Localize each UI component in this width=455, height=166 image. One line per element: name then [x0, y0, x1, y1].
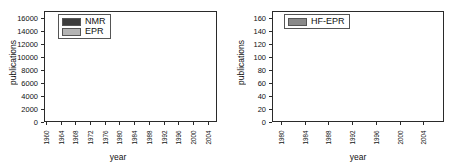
x-tick-mark-1988: [328, 122, 329, 125]
y-tick-label-120: 120: [228, 39, 266, 48]
x-tick-mark-1972: [90, 122, 91, 125]
x-tick-mark-1992: [352, 122, 353, 125]
x-tick-label-1996: 1996: [372, 130, 379, 144]
y-tick-label-12000: 12000: [0, 39, 38, 48]
y-tick-mark-14000: [41, 31, 44, 32]
x-tick-mark-2004: [208, 122, 209, 125]
y-tick-label-8000: 8000: [0, 65, 38, 74]
y-axis-title-right: publications: [236, 40, 246, 85]
x-tick-mark-1980: [281, 122, 282, 125]
x-tick-label-2004: 2004: [420, 130, 427, 144]
y-tick-mark-0: [41, 122, 44, 123]
x-tick-mark-1964: [61, 122, 62, 125]
y-tick-mark-16000: [41, 18, 44, 19]
y-tick-label-4000: 4000: [0, 91, 38, 100]
x-tick-mark-1992: [164, 122, 165, 125]
legend-label-hfepr: HF-EPR: [311, 17, 345, 26]
legend-label-nmr: NMR: [85, 17, 106, 26]
y-tick-label-2000: 2000: [0, 104, 38, 113]
y-tick-mark-60: [269, 83, 272, 84]
x-tick-label-1992: 1992: [349, 130, 356, 144]
x-tick-mark-1968: [75, 122, 76, 125]
x-tick-label-1980: 1980: [116, 130, 123, 144]
x-tick-mark-1988: [149, 122, 150, 125]
x-tick-label-2000: 2000: [396, 130, 403, 144]
y-tick-label-6000: 6000: [0, 78, 38, 87]
x-tick-label-1984: 1984: [301, 130, 308, 144]
x-tick-mark-1984: [305, 122, 306, 125]
y-tick-mark-40: [269, 96, 272, 97]
y-tick-mark-0: [269, 122, 272, 123]
x-tick-label-1968: 1968: [72, 130, 79, 144]
legend-swatch-hfepr: [288, 18, 307, 26]
x-tick-mark-1996: [178, 122, 179, 125]
y-tick-mark-12000: [41, 44, 44, 45]
x-tick-mark-1976: [105, 122, 106, 125]
x-tick-label-1992: 1992: [160, 130, 167, 144]
y-tick-mark-140: [269, 31, 272, 32]
x-tick-label-1980: 1980: [277, 130, 284, 144]
legend-label-epr: EPR: [85, 27, 104, 36]
x-tick-mark-1960: [46, 122, 47, 125]
x-tick-mark-1980: [119, 122, 120, 125]
x-tick-label-2004: 2004: [204, 130, 211, 144]
y-tick-label-0: 0: [0, 118, 38, 127]
x-tick-label-1988: 1988: [325, 130, 332, 144]
y-tick-mark-8000: [41, 70, 44, 71]
x-tick-mark-2000: [193, 122, 194, 125]
y-tick-label-10000: 10000: [0, 52, 38, 61]
chart-panel-nmr-epr: 0200040006000800010000120001400016000 19…: [0, 0, 228, 166]
y-tick-label-0: 0: [228, 118, 266, 127]
x-tick-mark-1996: [376, 122, 377, 125]
publication-statistics-figure: 0200040006000800010000120001400016000 19…: [0, 0, 455, 166]
legend-nmr-epr: NMR EPR: [58, 14, 111, 39]
y-tick-label-160: 160: [228, 13, 266, 22]
y-tick-mark-6000: [41, 83, 44, 84]
legend-hf-epr: HF-EPR: [284, 14, 350, 29]
y-tick-mark-120: [269, 44, 272, 45]
y-tick-mark-2000: [41, 109, 44, 110]
legend-item-epr: EPR: [62, 27, 106, 36]
chart-panel-hf-epr: 020406080100120140160 198019841988199219…: [228, 0, 455, 166]
x-tick-label-1996: 1996: [175, 130, 182, 144]
legend-swatch-nmr: [62, 18, 81, 26]
y-tick-label-14000: 14000: [0, 26, 38, 35]
x-tick-label-2000: 2000: [190, 130, 197, 144]
y-axis-title-left: publications: [8, 40, 18, 85]
y-tick-label-60: 60: [228, 78, 266, 87]
y-tick-mark-20: [269, 109, 272, 110]
y-tick-mark-80: [269, 70, 272, 71]
y-tick-label-80: 80: [228, 65, 266, 74]
legend-swatch-epr: [62, 28, 81, 36]
legend-item-hfepr: HF-EPR: [288, 17, 345, 26]
y-tick-mark-100: [269, 57, 272, 58]
x-tick-label-1988: 1988: [145, 130, 152, 144]
x-axis-title-left: year: [110, 152, 127, 162]
x-tick-label-1976: 1976: [101, 130, 108, 144]
x-tick-mark-2004: [423, 122, 424, 125]
y-tick-mark-160: [269, 18, 272, 19]
x-tick-label-1960: 1960: [42, 130, 49, 144]
x-tick-label-1964: 1964: [57, 130, 64, 144]
x-tick-mark-1984: [134, 122, 135, 125]
x-tick-mark-2000: [400, 122, 401, 125]
y-tick-label-20: 20: [228, 104, 266, 113]
y-tick-label-140: 140: [228, 26, 266, 35]
x-axis-title-right: year: [350, 152, 367, 162]
y-tick-mark-10000: [41, 57, 44, 58]
y-tick-label-16000: 16000: [0, 13, 38, 22]
x-tick-label-1972: 1972: [87, 130, 94, 144]
legend-item-nmr: NMR: [62, 17, 106, 26]
x-tick-label-1984: 1984: [131, 130, 138, 144]
y-tick-mark-4000: [41, 96, 44, 97]
y-tick-label-40: 40: [228, 91, 266, 100]
y-tick-label-100: 100: [228, 52, 266, 61]
